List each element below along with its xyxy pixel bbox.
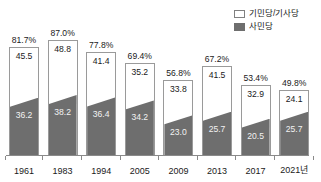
bar-total-label: 77.8% [86,40,116,50]
bar-total-label: 81.7% [9,35,39,45]
x-axis-tick [235,156,236,160]
bar-column[interactable]: 48.838.2 [48,40,78,156]
x-axis-label: 1983 [44,166,82,176]
bar-value-lower: 36.2 [10,110,38,120]
bar-value-lower: 34.2 [126,112,154,122]
x-axis-tick [5,156,6,160]
bar-value-lower: 20.5 [242,131,270,141]
bar-segment-lower [49,95,77,155]
chart-container: 기민당/기사당 사민당 81.7%45.536.2196187.0%48.838… [0,0,321,182]
bar-column[interactable]: 24.125.7 [279,90,309,156]
bar-group[interactable]: 53.4%32.920.5 [241,71,271,156]
bar-column[interactable]: 41.436.4 [86,52,116,156]
bar-value-lower: 36.4 [87,109,115,119]
bar-value-upper: 41.4 [87,56,115,66]
bar-total-label: 67.2% [202,54,232,64]
bar-total-label: 87.0% [48,28,78,38]
bar-group[interactable]: 67.2%41.525.7 [202,52,232,156]
bar-value-upper: 24.1 [280,94,308,104]
bar-total-label: 53.4% [241,73,271,83]
x-axis-tick [158,156,159,160]
bar-value-upper: 41.5 [203,70,231,80]
bar-value-lower: 38.2 [49,107,77,117]
bar-column[interactable]: 33.823.0 [163,80,193,156]
x-axis-label: 2017 [237,166,275,176]
x-axis-tick [81,156,82,160]
x-axis-label: 1961 [5,166,43,176]
bar-group[interactable]: 77.8%41.436.4 [86,38,116,156]
bar-column[interactable]: 41.525.7 [202,66,232,156]
x-axis-label: 1994 [82,166,120,176]
bar-segment-lower [126,100,154,155]
bar-segment-lower [10,98,38,155]
bar-column[interactable]: 35.234.2 [125,63,155,156]
bar-column[interactable]: 45.536.2 [9,47,39,156]
x-axis-label: 2005 [121,166,159,176]
x-axis-tick [197,156,198,160]
bar-group[interactable]: 87.0%48.838.2 [48,26,78,156]
bar-group[interactable]: 56.8%33.823.0 [163,66,193,156]
bar-value-lower: 23.0 [164,127,192,137]
x-axis-line [6,155,309,156]
bar-total-label: 69.4% [125,51,155,61]
bar-total-label: 56.8% [163,68,193,78]
x-axis-tick [274,156,275,160]
bar-column[interactable]: 32.920.5 [241,85,271,156]
bar-value-upper: 32.9 [242,89,270,99]
bar-total-label: 49.8% [279,78,309,88]
x-axis-label: 2021년 [275,163,313,176]
x-axis-tick [42,156,43,160]
x-axis-label: 2009 [159,166,197,176]
bar-value-upper: 48.8 [49,44,77,54]
x-axis-tick [313,156,314,160]
bar-group[interactable]: 69.4%35.234.2 [125,49,155,156]
bar-value-lower: 25.7 [203,124,231,134]
x-axis-tick [120,156,121,160]
bar-value-lower: 25.7 [280,124,308,134]
bar-segment-lower [87,97,115,155]
bar-group[interactable]: 49.8%24.125.7 [279,76,309,156]
x-axis-label: 2013 [198,166,236,176]
bar-group[interactable]: 81.7%45.536.2 [9,33,39,156]
bar-value-upper: 33.8 [164,84,192,94]
bar-value-upper: 45.5 [10,51,38,61]
bar-value-upper: 35.2 [126,67,154,77]
